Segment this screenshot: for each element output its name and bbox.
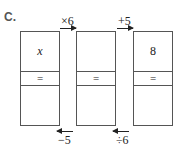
- problem-label: C.: [4, 10, 16, 24]
- function-box-3: 8 =: [133, 31, 173, 126]
- box-1-input: x: [21, 32, 59, 72]
- forward-arrow-1: [60, 28, 76, 29]
- reverse-op-2: ÷6: [116, 133, 129, 148]
- box-3-equals: =: [134, 72, 172, 86]
- box-2-equals: =: [77, 72, 115, 86]
- box-2-input: [77, 32, 115, 72]
- function-box-1: x =: [20, 31, 60, 126]
- reverse-arrow-1: [57, 131, 73, 132]
- reverse-arrow-2: [113, 131, 129, 132]
- box-1-equals: =: [21, 72, 59, 86]
- reverse-op-1: −5: [58, 133, 71, 148]
- function-box-2: =: [76, 31, 116, 126]
- box-3-input: 8: [134, 32, 172, 72]
- forward-arrow-2: [117, 28, 133, 29]
